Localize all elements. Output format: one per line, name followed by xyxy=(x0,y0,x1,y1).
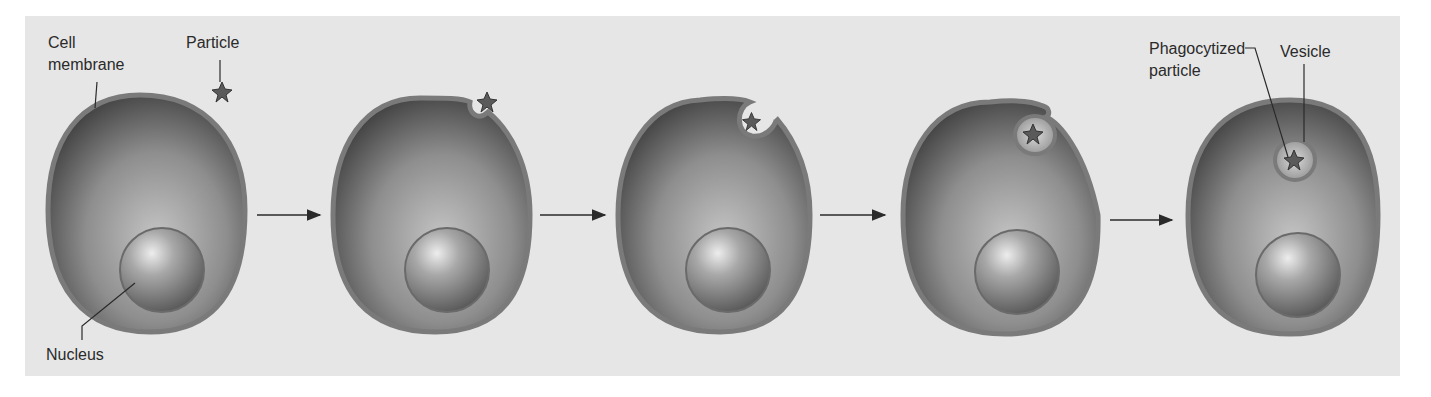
stage-2-cell xyxy=(333,92,530,332)
particle-label: Particle xyxy=(186,34,239,51)
stage-3-cell xyxy=(618,99,810,332)
particle-icon xyxy=(477,92,497,112)
cell-membrane-label-line1: Cell xyxy=(48,34,76,51)
stage-5-cell xyxy=(1188,100,1378,334)
nucleus-icon xyxy=(975,230,1059,314)
vesicle-label: Vesicle xyxy=(1280,43,1331,60)
stage-4-cell xyxy=(903,101,1098,334)
nucleus-icon xyxy=(405,228,489,312)
nucleus-icon xyxy=(120,228,204,312)
cell-membrane-label-line2: membrane xyxy=(48,56,125,73)
particle-icon xyxy=(743,113,761,131)
phagocytized-particle-label-line2: particle xyxy=(1149,62,1201,79)
phagocytized-particle-label-line1: Phagocytized xyxy=(1149,40,1245,57)
phagocytosis-diagram: Cell membrane Particle Nucleus Phagocyti… xyxy=(0,0,1431,397)
nucleus-icon xyxy=(686,228,770,312)
nucleus-label: Nucleus xyxy=(46,346,104,363)
stage-1-cell xyxy=(48,82,245,332)
particle-icon xyxy=(212,82,232,102)
nucleus-icon xyxy=(1256,233,1340,317)
